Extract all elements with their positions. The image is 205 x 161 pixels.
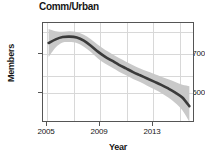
chart-figure: Comm/Urban Members 700 600 2005 2009 201…: [0, 0, 205, 161]
x-tick-mark-2009: [99, 122, 100, 126]
x-tick-label-2005: 2005: [31, 127, 61, 136]
x-axis-label: Year: [42, 142, 194, 152]
plot-area: [42, 22, 194, 122]
page-title: Comm/Urban: [39, 1, 99, 12]
series-plot: [43, 23, 194, 122]
x-tick-label-2009: 2009: [84, 127, 114, 136]
x-tick-mark-2013: [152, 122, 153, 126]
x-tick-label-2013: 2013: [137, 127, 167, 136]
confidence-band: [49, 29, 190, 122]
x-tick-mark-2005: [46, 122, 47, 126]
y-axis-label: Members: [6, 38, 16, 88]
